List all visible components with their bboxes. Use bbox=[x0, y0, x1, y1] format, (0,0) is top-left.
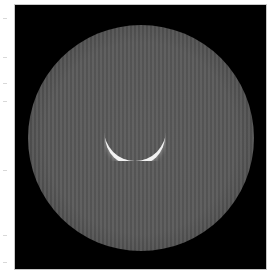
tick-mark bbox=[3, 235, 7, 236]
left-axis-ticks bbox=[0, 0, 12, 280]
tick-mark bbox=[3, 170, 7, 171]
tick-mark bbox=[3, 18, 7, 19]
image-frame bbox=[14, 4, 267, 270]
tick-mark bbox=[3, 101, 7, 102]
tick-mark bbox=[3, 57, 7, 58]
tick-mark bbox=[3, 83, 7, 84]
tick-mark bbox=[3, 262, 7, 263]
